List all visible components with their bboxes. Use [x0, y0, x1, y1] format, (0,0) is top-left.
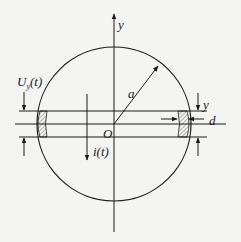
radius-arrow — [114, 66, 158, 124]
dim-d-label: d — [209, 114, 216, 127]
diagram-canvas: y a O i(t) Uy(t) y d — [0, 0, 241, 242]
voltage-label: Uy(t) — [17, 75, 42, 88]
y-axis-label: y — [118, 18, 124, 31]
current-label: i(t) — [93, 145, 109, 158]
origin-label: O — [103, 127, 112, 140]
diagram-drawing — [0, 0, 241, 242]
dim-y-label: y — [203, 98, 209, 111]
radius-label: a — [128, 87, 135, 100]
